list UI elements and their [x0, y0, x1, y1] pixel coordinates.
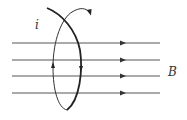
arrow-right-icon	[120, 74, 126, 79]
field-line-arrowheads	[120, 41, 126, 96]
arrow-right-icon	[120, 41, 126, 46]
loop-arrow-down-icon	[79, 66, 83, 72]
current-label: i	[35, 18, 39, 32]
loop-front-arc	[47, 8, 81, 110]
field-label: B	[167, 65, 177, 79]
arrow-right-icon	[120, 58, 126, 63]
loop-top-arrowhead-icon	[87, 9, 92, 16]
magnetic-field-loop-diagram: i B	[0, 0, 187, 120]
field-lines	[12, 43, 160, 93]
arrow-right-icon	[120, 91, 126, 96]
loop-back-arc	[53, 9, 89, 110]
loop-arrow-up-icon	[51, 62, 55, 68]
